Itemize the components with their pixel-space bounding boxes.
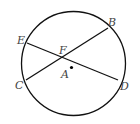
chord-ed [27,43,118,80]
center-point-a [70,66,73,69]
label-e: E [16,34,25,47]
label-b: B [107,16,116,29]
label-f: F [58,44,67,57]
label-c: C [15,79,24,92]
circle-diagram: E B C D F A [0,0,140,124]
label-a: A [60,68,69,81]
label-d: D [119,80,129,93]
